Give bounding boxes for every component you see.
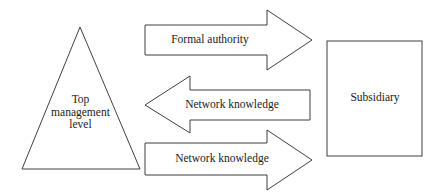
block-arrow-network-knowledge-left[interactable] [145,76,310,133]
diagram-vector-layer [0,0,443,194]
triangle-top-management-level[interactable] [22,27,140,169]
block-arrow-formal-authority-right[interactable] [145,10,312,70]
diagram-canvas: Topmanagementlevel Subsidiary Formal aut… [0,0,443,194]
rectangle-subsidiary[interactable] [327,41,422,156]
block-arrow-network-knowledge-right[interactable] [145,130,312,190]
